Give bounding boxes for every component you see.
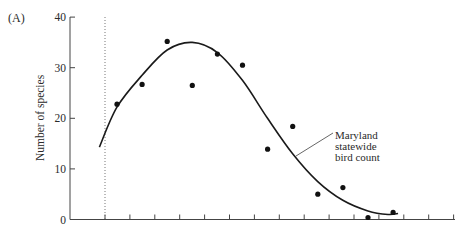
species-chart: (A) Number of species 010203040 Maryland…: [0, 0, 475, 234]
panel-label: (A): [8, 11, 25, 25]
data-point: [165, 39, 170, 44]
data-point: [290, 124, 295, 129]
annotation-line-3: bird count: [335, 151, 380, 163]
y-tick-label: 10: [55, 163, 67, 175]
annotation-leader-line: [296, 133, 333, 156]
y-tick-label: 20: [55, 112, 67, 124]
data-point: [215, 51, 220, 56]
data-point: [265, 147, 270, 152]
y-tick-label: 0: [60, 214, 66, 226]
y-tick-label: 40: [55, 11, 67, 23]
data-point: [315, 192, 320, 197]
x-axis: [70, 215, 455, 220]
data-point: [340, 185, 345, 190]
curve-annotation: Maryland statewide bird count: [296, 129, 380, 163]
data-point: [365, 215, 370, 220]
y-axis-label: Number of species: [34, 74, 47, 161]
data-point: [140, 82, 145, 87]
data-point: [190, 83, 195, 88]
y-tick-label: 30: [55, 62, 67, 74]
y-axis: 010203040: [55, 11, 76, 225]
data-point: [240, 63, 245, 68]
data-point: [114, 102, 119, 107]
data-point: [391, 210, 396, 215]
